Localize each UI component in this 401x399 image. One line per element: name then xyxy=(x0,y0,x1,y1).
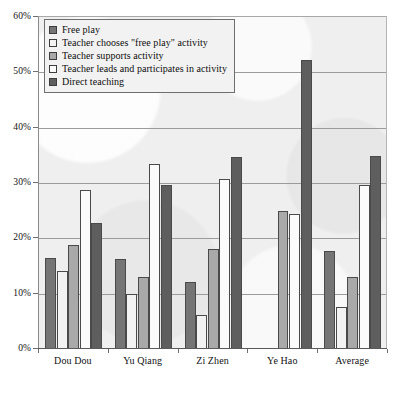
y-tick-label: 50% xyxy=(13,66,31,76)
bar xyxy=(185,282,196,348)
bar xyxy=(278,211,289,348)
x-tick-label: Average xyxy=(335,355,369,366)
x-tick-mark xyxy=(38,349,39,353)
bar xyxy=(115,259,126,348)
bar xyxy=(347,277,358,348)
bar xyxy=(91,223,102,348)
legend-label: Free play xyxy=(62,23,100,36)
bar xyxy=(45,258,56,348)
legend-swatch-icon xyxy=(49,39,57,47)
x-tick-mark xyxy=(178,349,179,353)
y-tick-label: 30% xyxy=(13,177,31,187)
bar xyxy=(301,60,312,348)
x-tick-mark xyxy=(247,349,248,353)
legend-item: Direct teaching xyxy=(49,75,227,88)
legend-item: Teacher leads and participates in activi… xyxy=(49,62,227,75)
bar-chart: 0%10%20%30%40%50%60% Dou DouYu QiangZi Z… xyxy=(0,0,401,399)
y-tick-label: 60% xyxy=(13,11,31,21)
y-tick-label: 10% xyxy=(13,288,31,298)
bar xyxy=(68,245,79,348)
x-tick-label: Zi Zhen xyxy=(196,355,229,366)
x-axis-line xyxy=(38,348,387,349)
x-tick-label: Ye Hao xyxy=(267,355,297,366)
bar xyxy=(161,185,172,348)
x-tick-mark xyxy=(108,349,109,353)
bar xyxy=(359,185,370,348)
legend-item: Teacher chooses "free play" activity xyxy=(49,36,227,49)
legend-swatch-icon xyxy=(49,65,57,73)
legend-item: Free play xyxy=(49,23,227,36)
bar xyxy=(126,294,137,348)
legend-label: Teacher supports activity xyxy=(62,49,164,62)
y-axis: 0%10%20%30%40%50%60% xyxy=(0,0,38,349)
legend: Free playTeacher chooses "free play" act… xyxy=(44,19,235,93)
bar xyxy=(138,277,149,348)
legend-item: Teacher supports activity xyxy=(49,49,227,62)
bar xyxy=(196,315,207,348)
legend-label: Direct teaching xyxy=(62,75,124,88)
x-tick-mark xyxy=(317,349,318,353)
y-tick-label: 20% xyxy=(13,232,31,242)
bar xyxy=(80,190,91,348)
x-tick-label: Yu Qiang xyxy=(123,355,162,366)
bar xyxy=(336,307,347,349)
bar xyxy=(370,156,381,348)
y-tick-label: 0% xyxy=(18,343,31,353)
legend-swatch-icon xyxy=(49,52,57,60)
bar xyxy=(289,214,300,348)
bar xyxy=(324,251,335,348)
legend-label: Teacher leads and participates in activi… xyxy=(62,62,227,75)
legend-swatch-icon xyxy=(49,26,57,34)
y-tick-label: 40% xyxy=(13,122,31,132)
x-tick-label: Dou Dou xyxy=(54,355,92,366)
bar xyxy=(57,271,68,348)
legend-label: Teacher chooses "free play" activity xyxy=(62,36,208,49)
bar xyxy=(231,157,242,348)
bar xyxy=(208,249,219,348)
bar xyxy=(149,164,160,348)
bar xyxy=(219,179,230,348)
x-tick-mark xyxy=(387,349,388,353)
legend-swatch-icon xyxy=(49,78,57,86)
